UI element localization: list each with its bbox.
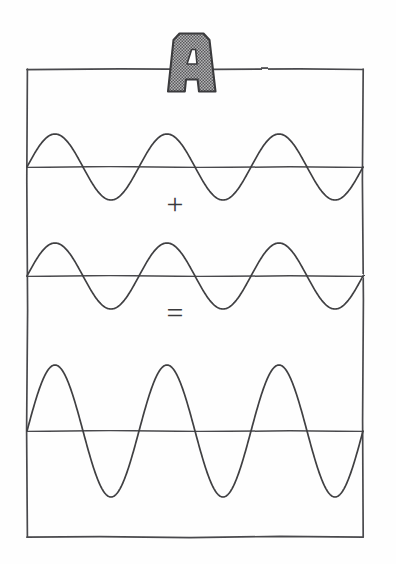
equals-operator: = xyxy=(160,298,190,332)
frame-right-edge xyxy=(362,69,363,537)
frame-left-edge xyxy=(27,69,28,537)
figure-canvas xyxy=(0,0,396,564)
plus-operator: + xyxy=(160,189,190,223)
wave-superposition-figure: Wave superposition (constructive interfe… xyxy=(0,0,396,564)
